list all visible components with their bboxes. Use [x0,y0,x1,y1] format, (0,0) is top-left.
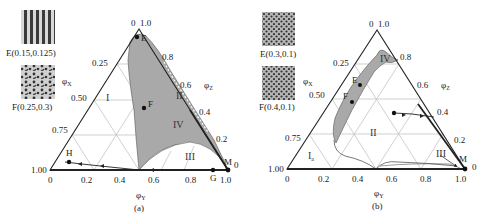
region-a-iv-label: IV [173,119,184,130]
point-a-m-label: M [224,157,232,167]
axis-a-phi-y: φY [136,190,146,201]
inset-b-e-label: E(0.3,0.1) [260,49,296,59]
axis-b-phi-y: φY [374,188,384,199]
bottom-tick-a-06: 0.6 [148,175,160,185]
point-b-e [358,83,362,87]
bottom-tick-a-02: 0.2 [81,175,92,185]
region-b-ii-label: II [370,127,377,138]
region-a-ii-label: II [176,90,183,101]
bottom-tick-a-10: 1.0 [220,175,232,185]
left-tick-b-050: 0.50 [309,90,325,100]
right-tick-b-02: 0.2 [454,135,465,145]
region-b-ia-label: Ia [308,150,314,162]
right-tick-a-08: 0.8 [162,52,174,62]
panel-a: E(0.15,0.125) F(0.25,0.3) [6,10,239,213]
left-tick-a-100: 1.00 [31,165,47,175]
right-tick-b-06: 0.6 [417,80,429,90]
panel-b: E(0.3,0.1) F(0.4,0.1) E [259,12,477,211]
point-a-h-label: H [66,148,73,158]
bottom-tick-a-04: 0.4 [114,175,126,185]
bottom-tick-b-06: 0.6 [386,174,398,184]
bottom-tick-b-04: 0.4 [352,174,364,184]
right-tick-a-02: 0.2 [216,134,227,144]
caption-a: (a) [134,203,144,213]
point-a-m [226,168,231,173]
point-a-e-label: E [141,33,147,43]
apex-a-1: 1.0 [140,18,152,28]
point-a-h [67,160,71,164]
inset-a-e-image [21,10,55,44]
inset-b-e-image [262,12,295,46]
point-a-e [135,35,139,39]
apex-b-0: 0 [369,19,374,29]
point-b-m [463,167,468,172]
caption-b: (b) [372,201,383,211]
point-a-f [142,106,146,110]
left-tick-b-025: 0.25 [333,58,349,68]
bottom-tick-b-08: 0.8 [420,174,432,184]
region-b-iv-label: IV [380,53,391,64]
bottom-tick-a-08: 0.8 [185,175,197,185]
bottom-tick-b-10: 1.0 [455,174,467,184]
bottom-tick-b-0: 0 [285,174,290,184]
point-a-g-label: G [210,173,217,183]
inset-a-f-image [21,65,55,99]
point-a-f-label: F [148,99,153,109]
right-tick-b-04: 0.4 [437,107,449,117]
point-b-f-label: F [343,91,348,101]
apex-a-0: 0 [131,18,136,28]
right-tick-b-0: 0 [472,162,477,172]
trajectory-b [394,113,434,117]
region-a-iii-label: III [185,151,195,162]
point-b-e-label: E [352,75,358,85]
left-tick-b-075: 0.75 [285,133,301,143]
region-a-i-label: I [106,92,109,103]
right-tick-a-0: 0 [234,160,239,170]
left-tick-b-100: 1.00 [268,164,284,174]
axis-a-phi-x: φX [62,76,72,87]
inset-a-e-label: E(0.15,0.125) [6,48,56,58]
apex-b-1: 1.0 [378,19,390,29]
left-tick-a-025: 0.25 [92,58,108,68]
point-b-f [350,100,354,104]
point-a-g [211,168,215,172]
right-tick-a-06: 0.6 [180,80,192,90]
bottom-tick-a-0: 0 [48,175,53,185]
left-tick-a-075: 0.75 [52,125,68,135]
ternary-phase-diagrams: E(0.15,0.125) F(0.25,0.3) [0,0,484,220]
point-b-m-label: M [459,154,467,164]
left-tick-a-050: 0.50 [71,93,87,103]
right-tick-a-04: 0.4 [199,107,211,117]
axis-b-phi-x: φX [303,76,313,87]
right-tick-b-08: 0.8 [400,52,412,62]
point-b-start [392,111,396,115]
inset-b-f-label: F(0.4,0.1) [259,102,295,112]
bottom-tick-b-02: 0.2 [318,174,329,184]
inset-a-f-label: F(0.25,0.3) [12,102,52,112]
region-b-iii-label: III [436,148,446,159]
axis-b-phi-z: φZ [441,80,450,91]
inset-b-f-image [262,66,295,100]
axis-a-phi-z: φZ [204,80,213,91]
